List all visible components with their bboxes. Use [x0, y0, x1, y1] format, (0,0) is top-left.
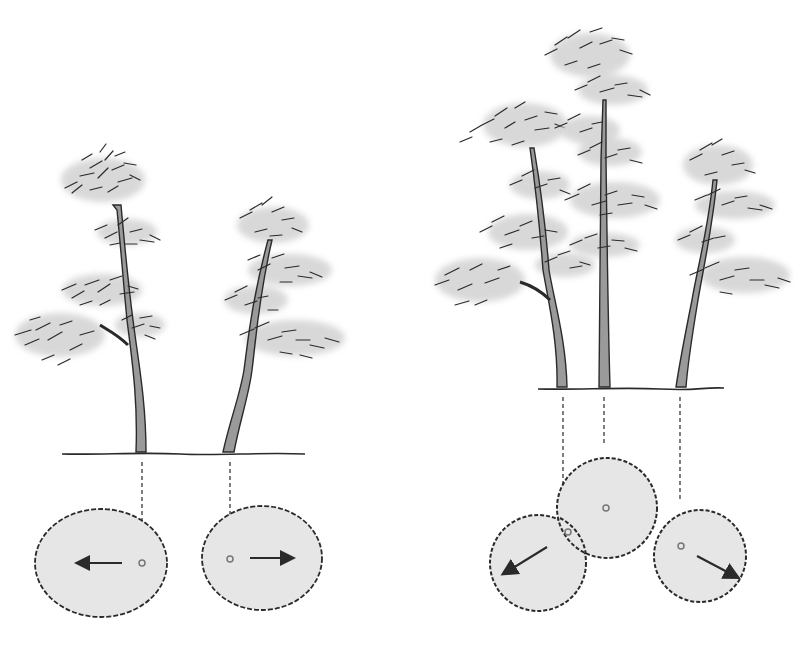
tree-right-2 [545, 28, 660, 387]
root-footprint-4 [557, 458, 657, 558]
root-footprint-2 [202, 506, 322, 610]
ground-line [538, 388, 724, 390]
root-footprint-1 [35, 509, 167, 617]
ground-line [62, 453, 305, 454]
bonsai-planting-diagram [0, 0, 808, 653]
tree-right-3 [675, 139, 790, 387]
tree-left-2 [223, 197, 345, 452]
tree-left-1 [15, 144, 165, 452]
two-tree-group [15, 144, 345, 617]
three-tree-group [435, 28, 790, 611]
root-footprint-5 [654, 510, 746, 602]
